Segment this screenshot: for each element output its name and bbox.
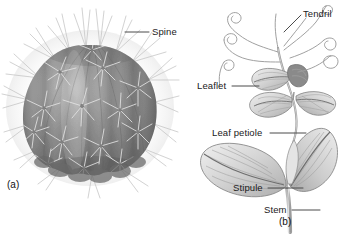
caption-panel-b: (b) xyxy=(279,217,291,227)
label-spine: Spine xyxy=(152,27,177,37)
label-tendril: Tendril xyxy=(303,9,332,19)
label-leaf-petiole: Leaf petiole xyxy=(212,128,262,138)
caption-panel-a: (a) xyxy=(7,180,19,190)
label-leaflet: Leaflet xyxy=(197,81,226,91)
leaflet-shapes-upper xyxy=(252,64,308,90)
stipule-shapes xyxy=(201,128,338,196)
botanical-figure: Spine (a) Tendril Leaflet Leaf petiole S… xyxy=(0,0,345,234)
label-stipule: Stipule xyxy=(233,183,263,193)
pea-plant-illustration xyxy=(180,0,345,234)
label-stem: Stem xyxy=(264,205,287,215)
panel-b-pea-plant xyxy=(180,0,345,234)
